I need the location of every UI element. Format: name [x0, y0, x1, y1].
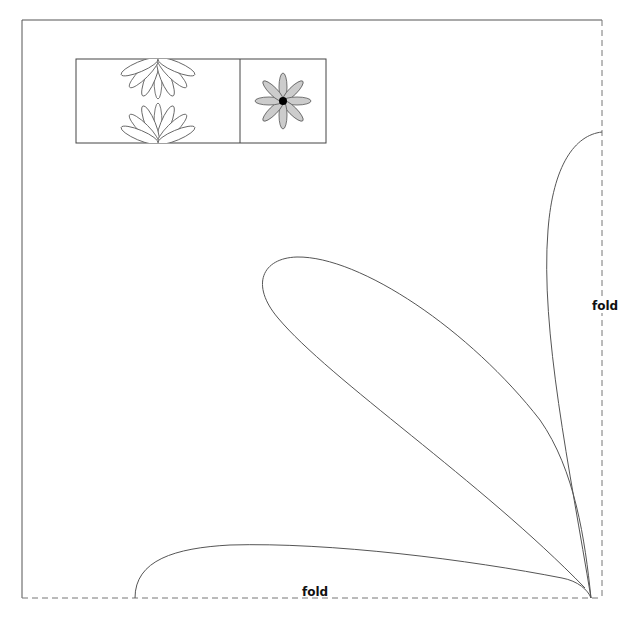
- petal-horizontal: [135, 545, 591, 598]
- flower-center: [279, 97, 287, 105]
- fold-label-right: fold: [591, 299, 619, 313]
- petal-vertical: [547, 132, 602, 598]
- petal-template: [135, 132, 602, 598]
- pattern-canvas: [0, 0, 629, 624]
- thumbnail-preview: [76, 54, 326, 147]
- fold-label-bottom: fold: [301, 585, 329, 599]
- full-flower-icon: [255, 73, 311, 129]
